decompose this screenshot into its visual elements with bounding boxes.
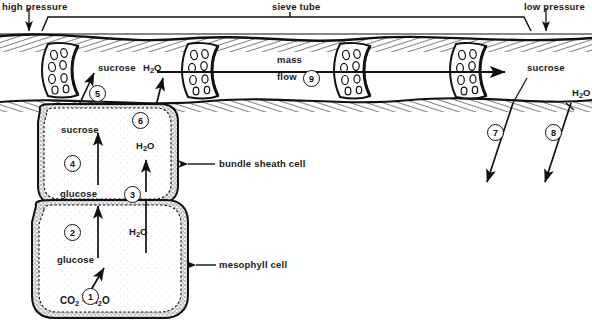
step-marker-8: 8	[545, 124, 562, 141]
step-marker-4: 4	[64, 155, 81, 172]
label-flow: flow	[277, 71, 297, 82]
callout-mesophyll-cell: mesophyll cell	[219, 259, 287, 270]
label-glucose-mid: glucose	[60, 188, 97, 199]
step-marker-3: 3	[124, 186, 141, 203]
bundle-sheath-cell-shape	[38, 104, 178, 204]
step-marker-1: 1	[82, 288, 99, 305]
label-h2o-right: H2O	[572, 88, 590, 100]
label-h2o-mesophyll: H2O	[129, 228, 147, 239]
mesophyll-cell-shape	[32, 200, 188, 318]
phloem-diagram: high pressure sieve tube low pressure	[0, 0, 592, 323]
unloading-arrow-7	[487, 103, 513, 182]
label-h2o-bundle: H2O	[136, 142, 154, 153]
step-marker-9: 9	[303, 70, 320, 87]
callout-bundle-sheath-cell: bundle sheath cell	[219, 158, 305, 169]
step-marker-2: 2	[64, 224, 81, 241]
label-sucrose-out: sucrose	[61, 124, 99, 135]
label-mass: mass	[277, 54, 302, 65]
step-marker-6: 6	[132, 112, 149, 129]
label-h2o-left: H2O	[143, 64, 161, 75]
step-marker-7: 7	[487, 124, 504, 141]
unloading-arrow-8	[545, 103, 571, 182]
label-sucrose-right: sucrose	[527, 62, 565, 73]
label-glucose-low: glucose	[57, 254, 94, 265]
step-marker-5: 5	[89, 85, 106, 102]
label-sucrose-left: sucrose	[98, 62, 136, 73]
